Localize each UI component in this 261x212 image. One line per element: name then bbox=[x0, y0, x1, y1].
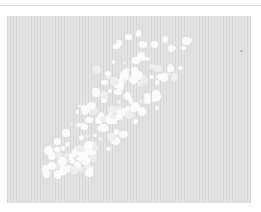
white-blob bbox=[92, 88, 99, 96]
white-blob bbox=[106, 76, 110, 79]
white-blob bbox=[84, 141, 92, 150]
white-blob bbox=[116, 113, 123, 121]
white-blob bbox=[117, 83, 124, 89]
white-blob bbox=[65, 142, 70, 147]
white-blob bbox=[149, 64, 155, 69]
white-blob bbox=[152, 92, 161, 101]
white-blob bbox=[167, 66, 174, 72]
white-blob bbox=[122, 79, 126, 82]
white-blob bbox=[76, 110, 79, 113]
white-blob bbox=[137, 52, 145, 61]
white-blob bbox=[89, 154, 97, 162]
white-blob bbox=[138, 107, 146, 116]
white-blob bbox=[54, 170, 62, 179]
white-blob bbox=[70, 123, 73, 126]
white-blob bbox=[139, 99, 143, 103]
white-blob bbox=[154, 65, 162, 72]
white-blob bbox=[181, 46, 186, 51]
white-blob bbox=[113, 119, 117, 124]
white-blob bbox=[93, 65, 102, 74]
white-blob bbox=[123, 61, 126, 64]
white-blob bbox=[44, 146, 53, 155]
white-blob bbox=[81, 124, 87, 130]
white-blob bbox=[85, 134, 89, 138]
white-blob bbox=[106, 147, 111, 151]
white-blob bbox=[162, 36, 169, 43]
white-blob bbox=[70, 166, 78, 175]
white-blob bbox=[137, 81, 142, 87]
white-blob bbox=[189, 38, 192, 41]
white-blob bbox=[100, 91, 108, 99]
white-blob bbox=[55, 147, 60, 152]
white-blob bbox=[99, 137, 103, 141]
white-blob bbox=[85, 117, 92, 123]
white-blob bbox=[48, 162, 56, 171]
white-blob bbox=[78, 167, 83, 172]
white-blob bbox=[112, 60, 115, 64]
white-blob bbox=[151, 41, 158, 49]
white-blob bbox=[124, 68, 129, 73]
white-blob bbox=[54, 138, 61, 145]
white-blob bbox=[171, 73, 178, 81]
white-blob bbox=[155, 106, 159, 110]
white-blob bbox=[125, 34, 131, 41]
white-blob bbox=[155, 80, 159, 85]
top-divider-line bbox=[0, 5, 261, 6]
white-blob bbox=[149, 75, 154, 79]
white-blob bbox=[160, 73, 168, 82]
white-blob bbox=[131, 67, 138, 73]
white-blob bbox=[113, 44, 119, 49]
white-blob bbox=[125, 106, 130, 110]
white-blob bbox=[108, 89, 112, 93]
white-blob bbox=[101, 80, 107, 86]
white-blob bbox=[133, 119, 138, 124]
white-blob bbox=[178, 66, 183, 70]
white-blob bbox=[144, 97, 151, 104]
white-blob bbox=[107, 133, 115, 140]
dark-speck bbox=[240, 50, 243, 52]
micrograph-image bbox=[7, 16, 251, 203]
white-blob bbox=[93, 134, 97, 138]
white-blob bbox=[61, 146, 65, 150]
white-blob bbox=[125, 111, 134, 118]
white-blob bbox=[119, 131, 126, 138]
white-blob bbox=[168, 45, 174, 52]
white-blob bbox=[62, 129, 70, 137]
white-blob bbox=[139, 41, 147, 47]
white-blob bbox=[69, 156, 73, 161]
white-blob bbox=[79, 135, 84, 140]
white-blob bbox=[117, 106, 121, 110]
white-blob bbox=[136, 30, 142, 37]
white-blob bbox=[144, 57, 150, 62]
white-blob bbox=[117, 100, 121, 104]
